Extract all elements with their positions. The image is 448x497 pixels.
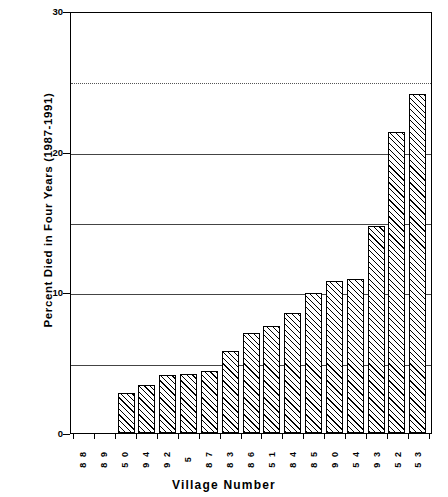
x-tick-label-83: 8 3 <box>225 450 235 467</box>
x-tick-mark <box>324 434 325 439</box>
x-tick-mark <box>73 434 74 439</box>
bar-village-85 <box>305 293 322 433</box>
x-label-slot: 8 5 <box>303 440 324 474</box>
x-label-slot: 9 0 <box>324 440 345 474</box>
x-label-slot: 5 <box>178 440 199 474</box>
x-label-slot: 5 3 <box>408 440 429 474</box>
x-tick-label-84: 8 4 <box>288 450 298 467</box>
bar-village-84 <box>284 313 301 433</box>
x-label-slot: 5 0 <box>115 440 136 474</box>
x-tick-mark <box>366 434 367 439</box>
bar-village-5 <box>180 374 197 433</box>
bar-slot <box>136 13 157 433</box>
x-tick-mark <box>282 434 283 439</box>
x-tick-label-50: 5 0 <box>120 450 130 467</box>
x-tick-label-54: 5 4 <box>351 450 361 467</box>
x-tick-mark <box>94 434 95 439</box>
bar-slot <box>199 13 220 433</box>
bar-slot <box>116 13 137 433</box>
bar-village-83 <box>222 351 239 433</box>
x-tick-mark <box>241 434 242 439</box>
bar-slot <box>220 13 241 433</box>
bar-slot <box>95 13 116 433</box>
x-label-slot: 5 4 <box>345 440 366 474</box>
bar-slot <box>178 13 199 433</box>
x-label-slot: 5 2 <box>387 440 408 474</box>
x-label-slot: 5 1 <box>261 440 282 474</box>
bar-village-53 <box>409 94 426 433</box>
x-tick-mark <box>136 434 137 439</box>
y-tick-label-30: 30 <box>23 7 63 17</box>
x-label-slot: 9 3 <box>366 440 387 474</box>
bar-slot <box>241 13 262 433</box>
x-label-slot: 8 3 <box>220 440 241 474</box>
x-tick-label-88: 8 8 <box>78 450 88 467</box>
bar-slot <box>386 13 407 433</box>
bar-series <box>71 13 431 433</box>
y-tick-label-10: 10 <box>23 288 63 298</box>
x-tick-label-86: 8 6 <box>246 450 256 467</box>
x-tick-label-89: 8 9 <box>99 450 109 467</box>
x-tick-mark <box>303 434 304 439</box>
bar-village-51 <box>263 326 280 433</box>
x-tick-label-85: 8 5 <box>309 450 319 467</box>
x-label-slot: 9 2 <box>157 440 178 474</box>
x-tick-mark <box>429 434 430 439</box>
y-tick-mark-0 <box>63 434 70 435</box>
x-label-slot: 8 4 <box>282 440 303 474</box>
bar-slot <box>74 13 95 433</box>
x-tick-label-92: 9 2 <box>162 450 172 467</box>
y-tick-label-0: 0 <box>23 429 63 439</box>
bar-slot <box>324 13 345 433</box>
x-label-slot: 8 8 <box>73 440 94 474</box>
bar-slot <box>303 13 324 433</box>
x-axis-title: Village Number <box>0 478 448 492</box>
x-tick-mark <box>157 434 158 439</box>
x-label-slot: 8 6 <box>241 440 262 474</box>
x-tick-label-87: 8 7 <box>204 450 214 467</box>
x-tick-label-94: 9 4 <box>141 450 151 467</box>
bar-village-87 <box>201 371 218 433</box>
x-tick-label-93: 9 3 <box>372 450 382 467</box>
bar-village-86 <box>243 333 260 433</box>
bar-slot <box>345 13 366 433</box>
bar-village-94 <box>138 385 155 433</box>
bar-slot <box>157 13 178 433</box>
x-label-slot: 9 4 <box>136 440 157 474</box>
x-tick-label-51: 5 1 <box>267 450 277 467</box>
bar-village-54 <box>347 279 364 433</box>
x-tick-mark <box>199 434 200 439</box>
x-tick-label-53: 5 3 <box>413 450 423 467</box>
x-label-slot: 8 7 <box>199 440 220 474</box>
x-tick-mark <box>178 434 179 439</box>
bar-village-50 <box>118 393 135 433</box>
y-axis-title: Percent Died in Four Years (1987-1991) <box>42 80 62 340</box>
x-tick-mark <box>387 434 388 439</box>
bar-village-92 <box>159 375 176 433</box>
x-tick-mark <box>220 434 221 439</box>
x-label-slot: 8 9 <box>94 440 115 474</box>
x-tick-mark <box>408 434 409 439</box>
y-tick-mark-30 <box>63 12 70 13</box>
y-tick-label-20: 20 <box>23 148 63 158</box>
bar-slot <box>261 13 282 433</box>
plot-area <box>70 12 432 434</box>
bar-chart: Percent Died in Four Years (1987-1991) 0… <box>0 0 448 497</box>
bar-slot <box>282 13 303 433</box>
bar-village-52 <box>388 132 405 433</box>
x-tick-mark <box>345 434 346 439</box>
bar-slot <box>366 13 387 433</box>
bar-village-93 <box>368 226 385 433</box>
x-axis-tick-labels: 8 88 95 09 49 258 78 38 65 18 48 59 05 4… <box>70 440 432 474</box>
x-tick-label-90: 9 0 <box>330 450 340 467</box>
bar-village-90 <box>326 281 343 433</box>
bar-slot <box>407 13 428 433</box>
y-tick-mark-10 <box>63 293 70 294</box>
x-tick-mark <box>115 434 116 439</box>
x-tick-label-52: 5 2 <box>393 450 403 467</box>
y-tick-mark-20 <box>63 153 70 154</box>
x-tick-mark <box>261 434 262 439</box>
x-tick-label-5: 5 <box>183 456 193 463</box>
